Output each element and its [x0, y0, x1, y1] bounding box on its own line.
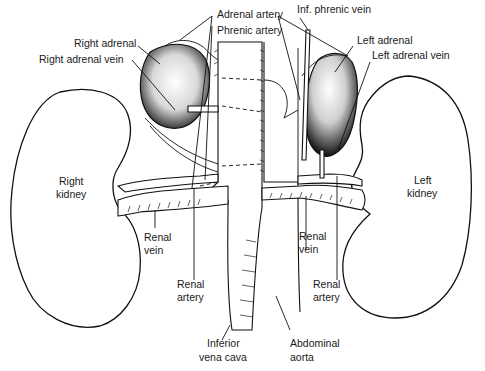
label-right-renal-vein-line1: Renal — [144, 231, 171, 243]
label-adrenal-artery: Adrenal artery — [217, 8, 284, 20]
left-adrenal-vein-vessel — [320, 150, 324, 178]
label-left-renal-artery-line1: Renal — [313, 278, 340, 290]
label-right-adrenal-vein: Right adrenal vein — [39, 53, 124, 65]
label-left-renal-artery-line2: artery — [313, 291, 341, 303]
label-inf-phrenic-vein: Inf. phrenic vein — [297, 3, 371, 15]
label-left-renal-vein-line1: Renal — [299, 230, 326, 242]
label-right-kidney-line1: Right — [59, 175, 84, 187]
label-left-renal-vein-line2: vein — [299, 243, 318, 255]
label-right-renal-vein-line2: vein — [144, 244, 163, 256]
label-aorta-line2: aorta — [290, 351, 314, 363]
label-left-kidney-line2: kidney — [407, 187, 438, 199]
label-right-renal-artery-line2: artery — [177, 291, 205, 303]
anatomy-diagram: Adrenal artery Phrenic artery Inf. phren… — [0, 0, 485, 371]
label-right-adrenal: Right adrenal — [74, 37, 136, 49]
label-ivc-line1: Inferior — [207, 337, 240, 349]
left-renal-vein — [262, 185, 365, 210]
label-aorta-line1: Abdominal — [290, 337, 340, 349]
abdominal-aorta — [264, 42, 300, 312]
right-adrenal-vein-vessel — [188, 106, 218, 112]
label-left-kidney-line1: Left — [414, 174, 432, 186]
label-phrenic-artery: Phrenic artery — [217, 24, 283, 36]
left-adrenal-gland — [306, 53, 358, 156]
label-left-adrenal-vein: Left adrenal vein — [372, 49, 450, 61]
label-right-renal-artery-line1: Renal — [177, 278, 204, 290]
label-left-adrenal: Left adrenal — [357, 34, 412, 46]
label-ivc-line2: vena cava — [199, 351, 247, 363]
left-renal-artery — [298, 174, 362, 186]
label-right-kidney-line2: kidney — [56, 188, 87, 200]
